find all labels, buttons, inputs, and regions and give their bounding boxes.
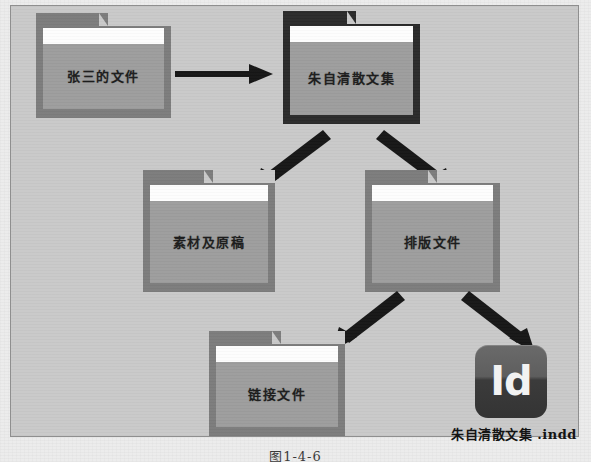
indesign-icon-label: Id [490,361,532,401]
folder-body: 排版文件 [372,201,493,283]
folder-white-strip [150,185,268,201]
folder-label: 朱自清散文集 [308,68,395,87]
folder-links[interactable]: 链接文件 [209,331,345,436]
folder-tab-notch [437,170,500,183]
folder-source[interactable]: 张三的文件 [36,13,171,118]
folder-project[interactable]: 朱自清散文集 [283,11,420,124]
scanned-book-page: 张三的文件 朱自清散文集 [0,0,591,462]
folder-body: 朱自清散文集 [290,42,413,115]
arrow-source-to-project [173,59,283,89]
folder-tab-notch [281,331,345,344]
folder-materials[interactable]: 素材及原稿 [143,170,275,292]
folder-label: 张三的文件 [67,66,140,85]
folder-label: 素材及原稿 [173,232,246,251]
folder-label: 排版文件 [404,232,462,251]
folder-label: 链接文件 [248,384,306,403]
folder-tab-notch [356,11,420,24]
folder-body: 素材及原稿 [150,201,268,283]
indesign-file-caption: 朱自清散文集 .indd [444,424,584,443]
folder-body: 张三的文件 [43,44,164,109]
folder-body: 链接文件 [216,362,338,427]
folder-layout[interactable]: 排版文件 [365,170,500,292]
folder-white-strip [43,28,164,44]
indesign-app-icon[interactable]: Id [475,345,547,418]
figure-number-caption: 图1-4-6 [0,446,591,462]
folder-white-strip [372,185,493,201]
folder-white-strip [290,26,413,42]
folder-tab-notch [213,170,275,183]
folder-white-strip [216,346,338,362]
folder-tab-notch [108,13,171,26]
